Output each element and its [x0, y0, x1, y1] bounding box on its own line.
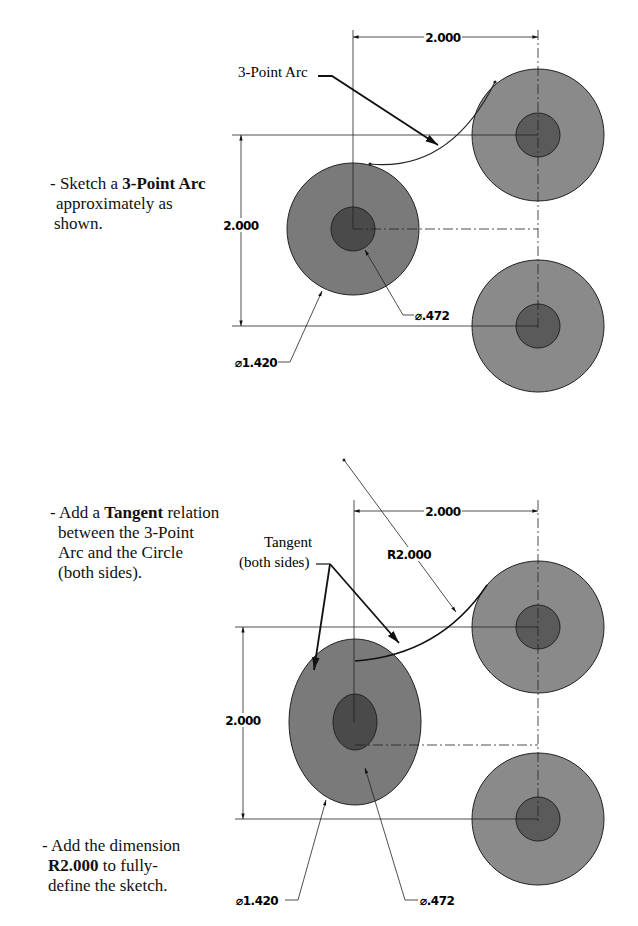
callout-3point-arc: 3-Point Arc — [238, 64, 308, 80]
dim-horizontal-2000-b: 2.000 — [425, 505, 461, 519]
figure-tangent-r2000: 2.000 2.000 R2.000 Tangent (both sides) … — [224, 459, 604, 909]
callout-tangent-line2: (both sides) — [239, 554, 309, 571]
dim-horizontal-2000: 2.000 — [425, 31, 461, 45]
inner-circle-left-2 — [333, 694, 377, 750]
callout-tangent-line1: Tangent — [264, 534, 313, 550]
dim-inner-diameter: ⌀.472 — [415, 309, 449, 323]
figure-3point-arc: 2.000 2.000 3-Point Arc ⌀.472 ⌀1.420 — [223, 30, 604, 392]
dim-radius-r2000: R2.000 — [387, 548, 431, 562]
dim-inner-diameter-b: ⌀.472 — [420, 894, 454, 908]
dim-outer-diameter-b: ⌀1.420 — [236, 894, 278, 908]
sketch-drawings: 2.000 2.000 3-Point Arc ⌀.472 ⌀1.420 — [0, 0, 638, 926]
dim-outer-diameter: ⌀1.420 — [235, 356, 277, 370]
dim-vertical-2000-b: 2.000 — [225, 714, 261, 728]
dim-vertical-2000: 2.000 — [223, 219, 259, 233]
